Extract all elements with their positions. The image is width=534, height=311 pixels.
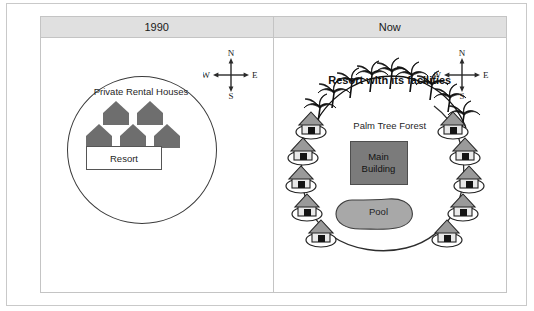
outer-frame: 1990 N E S W <box>6 3 527 306</box>
resort-box: Resort <box>86 146 162 170</box>
label-palm-tree-forest: Palm Tree Forest <box>274 120 507 131</box>
main-building-block: Main Building <box>350 141 408 185</box>
panel-now-body: N E S W Resort with its facilities <box>274 38 507 291</box>
bungalow-icon <box>306 220 336 247</box>
house-icon <box>86 124 112 148</box>
resort-box-label: Resort <box>110 153 138 164</box>
house-icon <box>103 101 129 125</box>
bungalow-column-right <box>432 112 484 247</box>
pool-label: Pool <box>350 206 408 217</box>
house-icon <box>154 124 180 148</box>
bungalow-icon <box>448 194 478 221</box>
bungalow-icon <box>286 166 316 193</box>
panel-1990-header: 1990 <box>41 17 273 38</box>
house-icon <box>120 124 146 148</box>
bungalow-icon <box>454 166 484 193</box>
panel-now-header: Now <box>274 17 507 38</box>
diagram-container: 1990 N E S W <box>40 16 507 293</box>
panel-1990-title: 1990 <box>145 21 169 33</box>
main-building-label-line2: Building <box>362 163 396 175</box>
panel-1990-body: N E S W Private Rental Houses <box>41 38 273 291</box>
bungalow-icon <box>432 220 462 247</box>
house-icon <box>137 101 163 125</box>
main-building-label-line1: Main <box>368 151 389 163</box>
bungalow-icon <box>288 138 318 165</box>
bungalow-column-left <box>286 112 336 247</box>
bungalow-icon <box>450 138 480 165</box>
panel-now: Now N E S W <box>274 17 507 292</box>
bungalow-icon <box>292 194 322 221</box>
panel-1990: 1990 N E S W <box>41 17 274 292</box>
panel-now-title: Now <box>379 21 401 33</box>
